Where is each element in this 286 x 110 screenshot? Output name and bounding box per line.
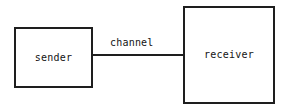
node-sender-label: sender: [35, 52, 72, 64]
diagram-canvas: sender channel receiver: [0, 0, 286, 110]
node-receiver-label: receiver: [204, 49, 254, 61]
node-sender[interactable]: sender: [14, 27, 93, 88]
node-receiver[interactable]: receiver: [183, 6, 275, 104]
edge-channel-label: channel: [110, 37, 154, 49]
edge-channel-line: [92, 54, 184, 56]
